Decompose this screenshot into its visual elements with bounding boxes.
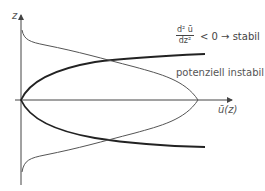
unstable-label: potenziell instabil [176, 67, 264, 78]
velocity-profile-diagram: z ū(z) d² ū dz² < 0 → stabil potenziell … [0, 0, 265, 191]
second-derivative-fraction: d² ū dz² [176, 25, 194, 46]
upper-inflection-curve [22, 30, 198, 100]
stable-condition-label: < 0 → stabil [200, 31, 260, 42]
lower-inflection-curve [22, 100, 198, 172]
u-axis-label: ū(z) [218, 104, 237, 115]
fraction-denominator: dz² [176, 36, 194, 46]
diagram-graphics [0, 0, 265, 191]
fraction-numerator: d² ū [176, 25, 194, 36]
z-axis-label: z [12, 10, 17, 21]
